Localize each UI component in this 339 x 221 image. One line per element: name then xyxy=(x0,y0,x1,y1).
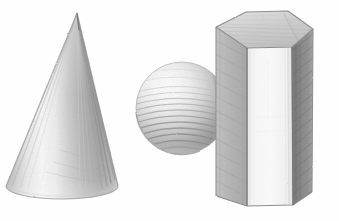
geometric-solids-illustration xyxy=(0,0,339,221)
drawing-canvas: Geometric Solids Pencil Study Cone Spher… xyxy=(0,0,339,221)
paper-overlay xyxy=(0,0,339,221)
